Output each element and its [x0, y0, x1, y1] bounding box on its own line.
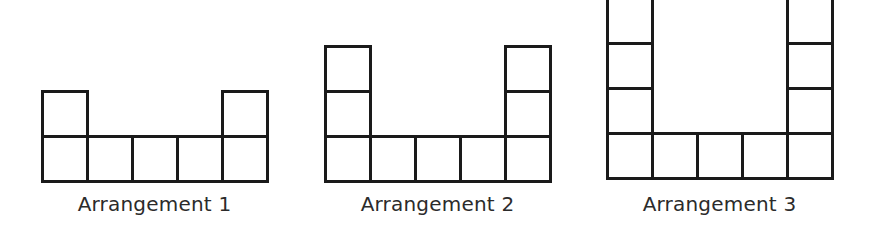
square-cell — [87, 136, 132, 181]
square-cell — [222, 136, 267, 181]
square-cell — [787, 0, 832, 43]
arrangement-2 — [324, 45, 552, 183]
square-cell — [742, 133, 787, 178]
square-cell — [787, 88, 832, 133]
square-cell — [132, 136, 177, 181]
square-cell — [652, 133, 697, 178]
arrangement-1 — [41, 90, 269, 183]
arrangement-3-grid — [606, 0, 834, 180]
square-cell — [460, 136, 505, 181]
arrangement-2-label: Arrangement 2 — [283, 192, 593, 216]
square-cell — [42, 136, 87, 181]
square-cell — [607, 133, 652, 178]
arrangement-1-label: Arrangement 1 — [0, 192, 310, 216]
square-cell — [607, 88, 652, 133]
square-cell — [177, 136, 222, 181]
square-cell — [505, 46, 550, 91]
square-cell — [42, 91, 87, 136]
square-cell — [787, 133, 832, 178]
arrangement-3-label: Arrangement 3 — [565, 192, 869, 216]
figure-canvas: Arrangement 1 Arrangement 2 Arrangement … — [0, 0, 869, 234]
square-cell — [415, 136, 460, 181]
square-cell — [325, 136, 370, 181]
square-cell — [697, 133, 742, 178]
arrangement-2-grid — [324, 45, 552, 183]
square-cell — [607, 0, 652, 43]
square-cell — [370, 136, 415, 181]
arrangement-3 — [606, 0, 834, 180]
arrangement-1-grid — [41, 90, 269, 183]
square-cell — [787, 43, 832, 88]
square-cell — [607, 43, 652, 88]
square-cell — [505, 91, 550, 136]
square-cell — [505, 136, 550, 181]
square-cell — [222, 91, 267, 136]
square-cell — [325, 91, 370, 136]
square-cell — [325, 46, 370, 91]
